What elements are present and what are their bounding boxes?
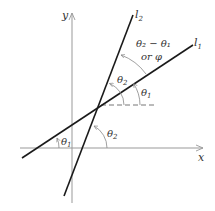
difference-label-line2: or φ [141,51,162,62]
arc-theta2-lower [94,126,107,148]
arc-theta1-lower [57,138,59,148]
x-axis-label: x [198,151,205,164]
arc-theta1-upper [134,84,141,106]
line-l1-label: l1 [194,36,202,51]
arc-theta2-upper [110,84,125,106]
diagram-canvas: y x l2 l1 θ₂ − θ₁ or φ θ2 θ1 θ1 θ2 [0,0,215,211]
line-l2-label: l2 [135,8,144,23]
angle-diagram: y x l2 l1 θ₂ − θ₁ or φ θ2 θ1 θ1 θ2 [0,0,215,211]
theta2-lower-label: θ2 [107,128,118,141]
line-l2 [64,15,133,196]
theta1-lower-label: θ1 [61,136,72,149]
y-axis-label: y [61,9,69,22]
theta2-upper-label: θ2 [117,74,128,87]
theta1-upper-label: θ1 [141,87,152,100]
line-l1 [22,45,193,158]
difference-label-line1: θ₂ − θ₁ [136,38,171,49]
